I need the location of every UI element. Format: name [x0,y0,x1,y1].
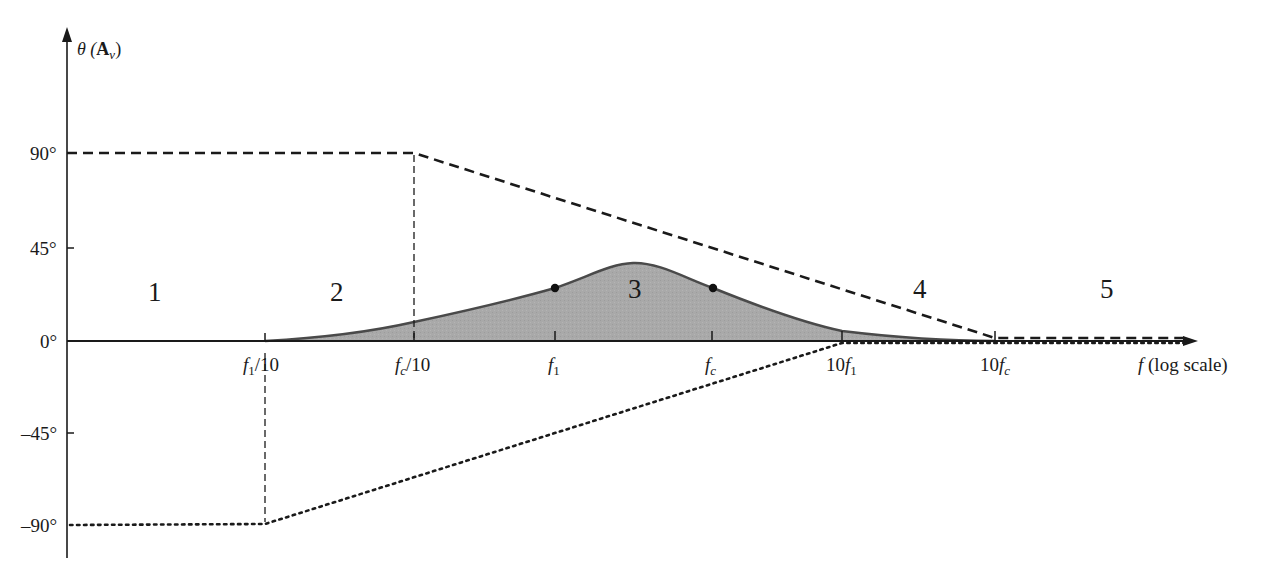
x-axis-label: f (log scale) [1138,355,1228,374]
x-tick-10fc: 10fc [980,355,1010,374]
y-tick-m45: –45° [21,424,57,443]
region-5: 5 [1100,276,1114,303]
y-tick-0: 0° [40,332,57,351]
x-tick-fc: fc [705,355,716,374]
x-tick-10f1: 10f1 [826,355,857,374]
y-label-A: A [96,39,109,59]
y-axis-label: θ (Av) [77,40,121,58]
y-axis-arrow-icon [62,27,72,42]
x-tick-f1-10: f1/10 [243,355,279,374]
y-label-theta: θ ( [77,39,96,59]
region-4: 4 [913,276,927,303]
dotted-asymptote [70,343,1190,525]
x-axis-arrow-icon [1183,336,1198,346]
region-1: 1 [148,279,162,306]
y-label-close: ) [115,39,121,59]
x-tick-fc-10: fc/10 [395,355,430,374]
y-tick-m90: –90° [21,516,57,535]
x-tick-f1: f1 [548,355,560,374]
y-tick-90: 90° [30,144,57,163]
region-2: 2 [330,279,344,306]
region-3: 3 [628,276,642,303]
marker-f1 [551,284,559,292]
y-tick-45: 45° [30,239,57,258]
marker-fc [709,284,717,292]
